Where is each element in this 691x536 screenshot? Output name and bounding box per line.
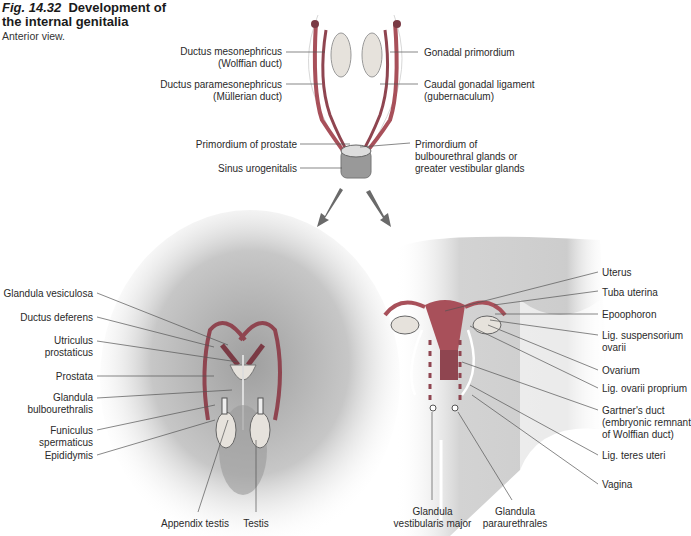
- label-text: (embryonic remnant: [602, 417, 691, 429]
- female-body-silhouette: [395, 237, 610, 536]
- label-text: Glandula: [385, 506, 480, 518]
- label-text: Funiculus: [0, 425, 93, 437]
- arrow-to-female: [366, 190, 391, 227]
- label-ovarium: Ovarium: [602, 365, 640, 377]
- label-tuba-uterina: Tuba uterina: [602, 287, 658, 299]
- label-primordium-bulbourethral: Primordium of bulbourethral glands or gr…: [415, 139, 525, 175]
- label-lig-ovarii-proprium: Lig. ovarii proprium: [602, 383, 687, 395]
- label-text: Glandula: [480, 506, 550, 518]
- label-prostata: Prostata: [0, 371, 93, 383]
- label-text: ovarii: [602, 342, 683, 354]
- label-gonadal-primordium: Gonadal primordium: [424, 47, 515, 59]
- label-text: spermaticus: [0, 437, 93, 449]
- label-text: (Müllerian duct): [140, 91, 282, 103]
- label-text: Ductus paramesonephricus: [140, 79, 282, 91]
- label-text: (Wolffian duct): [170, 58, 282, 70]
- label-uterus: Uterus: [602, 267, 631, 279]
- label-epoophoron: Epoophoron: [602, 309, 657, 321]
- label-ductus-mesonephricus: Ductus mesonephricus (Wolffian duct): [170, 46, 282, 70]
- label-gartners-duct: Gartner's duct (embryonic remnant of Wol…: [602, 405, 691, 441]
- label-glandula-vestibularis-major: Glandula vestibularis major: [385, 506, 480, 530]
- label-utriculus-prostaticus: Utriculus prostaticus: [0, 335, 93, 359]
- label-text: bulbourethralis: [0, 404, 93, 416]
- label-primordium-prostate: Primordium of prostate: [160, 139, 297, 151]
- label-testis: Testis: [236, 518, 276, 530]
- label-text: greater vestibular glands: [415, 163, 525, 175]
- label-ductus-deferens: Ductus deferens: [0, 312, 93, 324]
- indifferent-stage-diagram: [308, 15, 402, 178]
- label-vagina: Vagina: [602, 479, 632, 491]
- label-glandula-paraurethrales: Glandula paraurethrales: [480, 506, 550, 530]
- label-lig-suspensorium-ovarii: Lig. suspensorium ovarii: [602, 330, 683, 354]
- label-text: Ductus mesonephricus: [170, 46, 282, 58]
- arrow-to-male: [317, 188, 343, 227]
- label-ductus-paramesonephricus: Ductus paramesonephricus (Müllerian duct…: [140, 79, 282, 103]
- label-text: (gubernaculum): [424, 91, 535, 103]
- label-caudal-gonadal-ligament: Caudal gonadal ligament (gubernaculum): [424, 79, 535, 103]
- label-text: of Wolffian duct): [602, 429, 691, 441]
- label-appendix-testis: Appendix testis: [150, 518, 240, 530]
- label-text: Primordium of: [415, 139, 525, 151]
- label-text: paraurethrales: [480, 518, 550, 530]
- label-text: Caudal gonadal ligament: [424, 79, 535, 91]
- label-glandula-bulbourethralis: Glandula bulbourethralis: [0, 392, 93, 416]
- label-text: Gartner's duct: [602, 405, 691, 417]
- label-glandula-vesiculosa: Glandula vesiculosa: [0, 288, 93, 300]
- label-lig-teres-uteri: Lig. teres uteri: [602, 450, 665, 462]
- label-epididymis: Epididymis: [0, 450, 93, 462]
- label-text: vestibularis major: [385, 518, 480, 530]
- label-text: Utriculus: [0, 335, 93, 347]
- label-text: bulbourethral glands or: [415, 151, 525, 163]
- label-funiculus-spermaticus: Funiculus spermaticus: [0, 425, 93, 449]
- label-text: prostaticus: [0, 347, 93, 359]
- label-text: Lig. suspensorium: [602, 330, 683, 342]
- label-text: Glandula: [0, 392, 93, 404]
- label-sinus-urogenitalis: Sinus urogenitalis: [160, 163, 297, 175]
